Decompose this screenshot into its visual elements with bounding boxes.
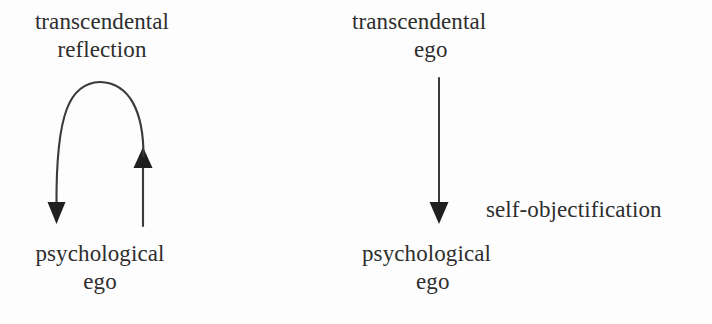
down-arrowhead-icon: [48, 202, 66, 224]
left-bottom-label-line1: psychological: [35, 241, 164, 266]
self-objectification-edge-label: self-objectification: [486, 196, 662, 224]
left-transcendental-reflection-label: transcendental reflection: [12, 8, 192, 64]
left-psychological-ego-label: psychological ego: [18, 240, 182, 296]
left-top-label-line2: reflection: [57, 37, 146, 62]
right-top-label-line1: transcendental: [352, 9, 486, 34]
right-bottom-label-line1: psychological: [362, 241, 491, 266]
left-arc-ascending-arrow: [100, 82, 153, 226]
right-transcendental-ego-label: transcendental ego: [352, 8, 524, 64]
left-top-label-line1: transcendental: [35, 9, 169, 34]
left-arc-descending-arrow: [48, 82, 101, 224]
down-arrowhead-icon: [430, 202, 449, 224]
right-psychological-ego-label: psychological ego: [362, 240, 514, 296]
right-top-label-line2: ego: [352, 36, 524, 64]
left-bottom-label-line2: ego: [83, 269, 117, 294]
figure-canvas: transcendental reflection psychological …: [0, 0, 712, 324]
right-downward-arrow: [430, 78, 449, 224]
right-bottom-label-line2: ego: [362, 268, 514, 296]
